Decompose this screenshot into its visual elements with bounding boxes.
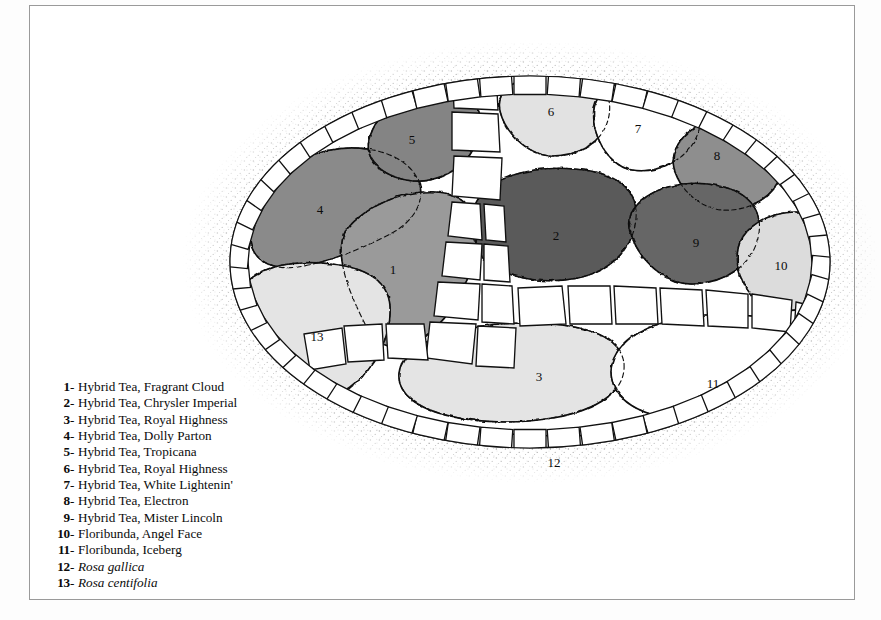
- legend-number: 11: [44, 542, 70, 558]
- legend-item-2: 2-Hybrid Tea, Chrysler Imperial: [44, 395, 284, 411]
- legend-item-9: 9-Hybrid Tea, Mister Lincoln: [44, 510, 284, 526]
- plan-label-12: 12: [548, 455, 561, 470]
- legend-dash: -: [70, 575, 77, 591]
- legend-plant-name: Hybrid Tea, Chrysler Imperial: [77, 395, 237, 411]
- legend-plant-name: Rosa centifolia: [77, 575, 157, 591]
- legend-number: 13: [44, 575, 70, 591]
- legend-plant-name: Rosa gallica: [77, 559, 144, 575]
- legend-item-13: 13-Rosa centifolia: [44, 575, 284, 591]
- legend-dash: -: [70, 395, 77, 411]
- legend-number: 10: [44, 526, 70, 542]
- legend-dash: -: [70, 412, 77, 428]
- legend-number: 2: [44, 395, 70, 411]
- plan-label-4: 4: [317, 202, 324, 217]
- legend-item-5: 5-Hybrid Tea, Tropicana: [44, 444, 284, 460]
- legend-dash: -: [70, 461, 77, 477]
- legend-plant-name: Hybrid Tea, Royal Highness: [77, 461, 228, 477]
- plan-label-5: 5: [409, 132, 416, 147]
- legend-plant-name: Hybrid Tea, Dolly Parton: [77, 428, 212, 444]
- legend-dash: -: [70, 477, 77, 493]
- legend-item-12: 12-Rosa gallica: [44, 559, 284, 575]
- plan-label-7: 7: [635, 121, 642, 136]
- legend-item-8: 8-Hybrid Tea, Electron: [44, 493, 284, 509]
- legend-plant-name: Floribunda, Angel Face: [77, 526, 202, 542]
- plan-label-3: 3: [536, 369, 543, 384]
- legend-item-7: 7-Hybrid Tea, White Lightenin': [44, 477, 284, 493]
- legend-number: 4: [44, 428, 70, 444]
- legend-plant-name: Hybrid Tea, Royal Highness: [77, 412, 228, 428]
- legend-dash: -: [70, 510, 77, 526]
- legend-plant-name: Hybrid Tea, Tropicana: [77, 444, 197, 460]
- legend-dash: -: [70, 428, 77, 444]
- legend-item-1: 1-Hybrid Tea, Fragrant Cloud: [44, 379, 284, 395]
- legend-plant-name: Floribunda, Iceberg: [77, 542, 182, 558]
- legend-dash: -: [70, 526, 77, 542]
- plant-key-legend: 1-Hybrid Tea, Fragrant Cloud2-Hybrid Tea…: [44, 379, 284, 591]
- legend-number: 7: [44, 477, 70, 493]
- figure-page: 12345678910111213 1-Hybrid Tea, Fragrant…: [0, 0, 881, 620]
- legend-dash: -: [70, 559, 77, 575]
- legend-number: 1: [44, 379, 70, 395]
- legend-dash: -: [70, 379, 77, 395]
- plan-label-13: 13: [311, 329, 324, 344]
- plan-label-9: 9: [693, 235, 700, 250]
- legend-plant-name: Hybrid Tea, Electron: [77, 493, 189, 509]
- legend-item-3: 3-Hybrid Tea, Royal Highness: [44, 412, 284, 428]
- legend-number: 6: [44, 461, 70, 477]
- plan-label-10: 10: [775, 258, 788, 273]
- legend-plant-name: Hybrid Tea, Mister Lincoln: [77, 510, 223, 526]
- legend-item-11: 11-Floribunda, Iceberg: [44, 542, 284, 558]
- plan-label-1: 1: [390, 262, 397, 277]
- plan-label-6: 6: [548, 104, 555, 119]
- plan-label-8: 8: [714, 148, 721, 163]
- legend-dash: -: [70, 493, 77, 509]
- legend-plant-name: Hybrid Tea, Fragrant Cloud: [77, 379, 224, 395]
- legend-item-4: 4-Hybrid Tea, Dolly Parton: [44, 428, 284, 444]
- legend-dash: -: [70, 444, 77, 460]
- plan-label-2: 2: [553, 228, 560, 243]
- legend-dash: -: [70, 542, 77, 558]
- legend-number: 9: [44, 510, 70, 526]
- legend-item-6: 6-Hybrid Tea, Royal Highness: [44, 461, 284, 477]
- garden-plan-diagram: 12345678910111213: [180, 24, 880, 484]
- legend-item-10: 10-Floribunda, Angel Face: [44, 526, 284, 542]
- plan-label-11: 11: [707, 376, 720, 391]
- legend-number: 3: [44, 412, 70, 428]
- legend-number: 8: [44, 493, 70, 509]
- figure-frame: 12345678910111213 1-Hybrid Tea, Fragrant…: [29, 5, 855, 600]
- legend-number: 5: [44, 444, 70, 460]
- legend-number: 12: [44, 559, 70, 575]
- legend-plant-name: Hybrid Tea, White Lightenin': [77, 477, 233, 493]
